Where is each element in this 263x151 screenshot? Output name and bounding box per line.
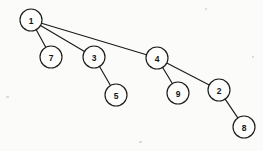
node-label-3: 3 [92,53,97,63]
graph-node-2[interactable]: 2 [208,79,230,101]
scan-speck [205,8,207,10]
scan-speck [6,96,9,98]
diagram-canvas: 17345928 [0,0,263,151]
graph-edge-1-7 [36,30,46,48]
graph-node-8[interactable]: 8 [233,116,255,138]
graph-node-7[interactable]: 7 [40,46,62,68]
node-label-7: 7 [49,53,54,63]
graph-node-5[interactable]: 5 [105,84,127,106]
scan-speck [139,141,142,143]
node-label-5: 5 [114,91,119,101]
edge-layer [36,23,238,118]
graph-node-3[interactable]: 3 [83,46,105,68]
scan-speck [252,56,254,58]
node-label-4: 4 [155,54,160,64]
node-layer: 17345928 [20,9,255,138]
graph-edge-4-9 [163,67,173,83]
node-label-9: 9 [176,89,181,99]
node-label-1: 1 [29,16,34,26]
tree-graph: 17345928 [0,0,263,151]
node-label-2: 2 [217,86,222,96]
graph-node-1[interactable]: 1 [20,9,42,31]
graph-edge-4-2 [167,63,209,85]
graph-edge-2-8 [225,99,238,118]
graph-node-9[interactable]: 9 [167,82,189,104]
node-label-8: 8 [242,123,247,133]
graph-edge-3-5 [100,67,111,86]
graph-node-4[interactable]: 4 [146,47,168,69]
